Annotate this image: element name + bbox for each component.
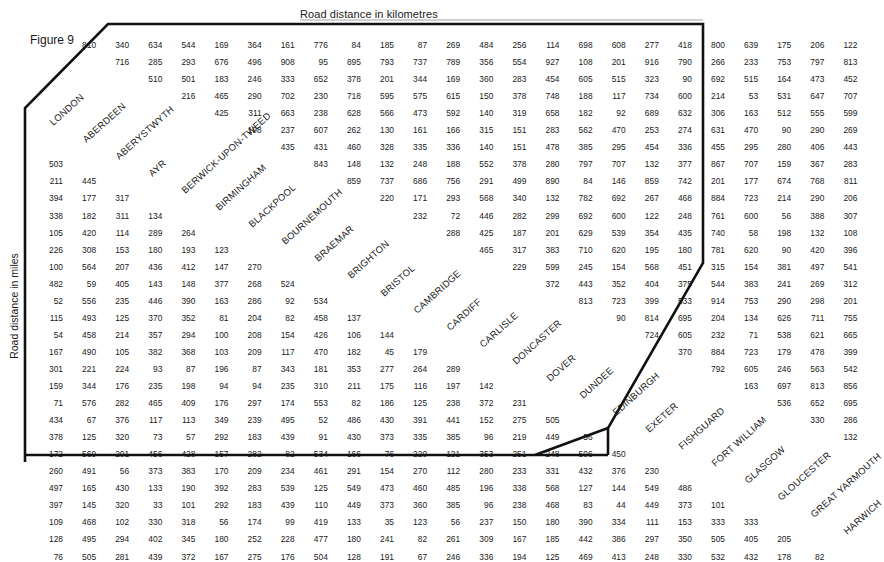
km-cell: 782 [567,193,593,203]
mile-cell: 123 [203,245,229,255]
km-cell: 132 [831,432,857,442]
km-cell: 256 [500,40,526,50]
mile-cell: 134 [136,211,162,221]
km-cell: 333 [269,74,295,84]
mile-cell: 83 [567,500,593,510]
mile-cell: 430 [103,483,129,493]
mile-cell: 101 [699,500,725,510]
mile-cell: 264 [169,228,195,238]
km-cell: 198 [236,125,262,135]
mile-cell: 112 [434,466,460,476]
mile-cell: 238 [434,398,460,408]
mile-cell: 275 [500,415,526,425]
km-cell: 312 [831,279,857,289]
city-label-glasgow: GLASGOW [742,444,787,486]
mile-cell: 137 [335,313,361,323]
km-cell: 134 [732,313,758,323]
km-cell: 452 [831,74,857,84]
km-cell: 555 [798,108,824,118]
mile-cell: 376 [600,466,626,476]
mile-cell: 230 [633,466,659,476]
km-cell: 352 [600,279,626,289]
mile-cell: 553 [302,398,328,408]
km-cell: 554 [500,57,526,67]
km-cell: 283 [831,159,857,169]
km-cell: 740 [699,228,725,238]
mile-cell: 241 [368,534,394,544]
mile-cell: 133 [136,483,162,493]
km-cell: 676 [203,57,229,67]
mile-cell: 185 [534,534,560,544]
km-cell: 267 [633,193,659,203]
km-cell: 737 [401,57,427,67]
mile-cell: 378 [37,432,63,442]
mile-cell: 320 [103,432,129,442]
km-cell: 201 [831,296,857,306]
km-cell: 183 [203,74,229,84]
km-cell: 317 [500,245,526,255]
km-cell: 319 [500,108,526,118]
km-cell: 130 [368,125,394,135]
km-cell: 615 [434,91,460,101]
mile-cell: 190 [169,483,195,493]
km-cell: 914 [699,296,725,306]
km-cell: 692 [699,74,725,84]
km-cell: 269 [434,40,460,50]
mile-cell: 176 [203,398,229,408]
mile-cell: 87 [236,364,262,374]
km-cell: 177 [732,176,758,186]
km-cell: 122 [831,40,857,50]
km-cell: 206 [798,40,824,50]
km-cell: 790 [666,57,692,67]
km-cell: 435 [666,228,692,238]
mile-cell: 125 [103,313,129,323]
mile-cell: 159 [37,381,63,391]
mile-cell: 495 [70,534,96,544]
km-cell: 375 [666,279,692,289]
mile-cell: 311 [103,211,129,221]
km-cell: 575 [401,91,427,101]
km-cell: 542 [831,364,857,374]
mile-cell: 436 [136,262,162,272]
mile-cell: 345 [169,534,195,544]
mile-cell: 485 [434,483,460,493]
mile-cell: 125 [534,552,560,562]
mile-cell: 333 [732,517,758,527]
mile-cell: 183 [236,432,262,442]
km-cell: 908 [269,57,295,67]
mile-cell: 116 [401,381,427,391]
km-cell: 813 [798,381,824,391]
mile-cell: 52 [37,296,63,306]
km-cell: 169 [434,74,460,84]
km-cell: 198 [765,228,791,238]
km-cell: 465 [467,245,493,255]
km-cell: 797 [567,159,593,169]
mile-cell: 52 [302,415,328,425]
km-cell: 330 [798,415,824,425]
km-cell: 108 [831,228,857,238]
mile-cell: 204 [236,313,262,323]
mile-cell: 309 [467,534,493,544]
km-cell: 245 [567,262,593,272]
mile-cell: 96 [467,500,493,510]
mile-cell: 101 [169,500,195,510]
mile-cell: 174 [236,517,262,527]
mile-cell: 128 [335,552,361,562]
km-cell: 605 [732,364,758,374]
mile-cell: 270 [401,466,427,476]
mile-cell: 121 [434,449,460,459]
km-cell: 563 [798,364,824,374]
km-cell: 813 [567,296,593,306]
km-cell: 378 [500,91,526,101]
mile-cell: 100 [203,330,229,340]
mile-cell: 231 [500,398,526,408]
km-cell: 340 [500,193,526,203]
km-cell: 674 [765,176,791,186]
mile-cell: 33 [136,500,162,510]
mile-cell: 219 [500,432,526,442]
km-cell: 595 [368,91,394,101]
km-cell: 195 [633,245,659,255]
mile-cell: 81 [203,313,229,323]
mile-cell: 449 [534,432,560,442]
mile-cell: 439 [269,500,295,510]
